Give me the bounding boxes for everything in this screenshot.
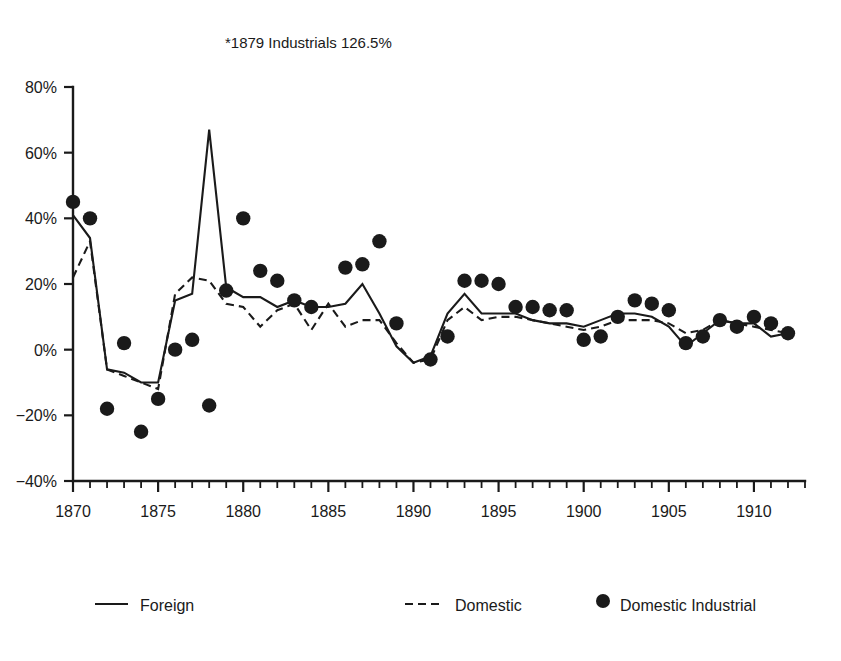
data-point-domestic-industrial xyxy=(730,319,744,333)
data-point-domestic-industrial xyxy=(83,211,97,225)
data-point-domestic-industrial xyxy=(713,313,727,327)
x-axis-tick-label: 1890 xyxy=(396,503,432,520)
data-point-domestic-industrial xyxy=(355,257,369,271)
legend-label-foreign: Foreign xyxy=(140,597,194,614)
data-point-domestic-industrial xyxy=(134,425,148,439)
x-axis-tick-label: 1910 xyxy=(736,503,772,520)
chart-title: *1879 Industrials 126.5% xyxy=(225,34,392,51)
x-axis-tick-label: 1870 xyxy=(55,503,91,520)
x-axis-tick-label: 1880 xyxy=(225,503,261,520)
data-point-domestic-industrial xyxy=(372,234,386,248)
data-point-domestic-industrial xyxy=(389,316,403,330)
data-point-domestic-industrial xyxy=(117,336,131,350)
y-axis-tick-label: 0% xyxy=(34,342,57,359)
legend-marker-domestic-industrial xyxy=(596,594,610,608)
data-point-domestic-industrial xyxy=(457,274,471,288)
data-point-domestic-industrial xyxy=(100,402,114,416)
data-point-domestic-industrial xyxy=(474,274,488,288)
data-point-domestic-industrial xyxy=(525,300,539,314)
data-point-domestic-industrial xyxy=(781,326,795,340)
data-point-domestic-industrial xyxy=(66,195,80,209)
x-axis-tick-label: 1905 xyxy=(651,503,687,520)
data-point-domestic-industrial xyxy=(168,342,182,356)
data-point-domestic-industrial xyxy=(287,293,301,307)
data-point-domestic-industrial xyxy=(423,352,437,366)
data-point-domestic-industrial xyxy=(542,303,556,317)
data-point-domestic-industrial xyxy=(577,333,591,347)
x-axis-tick-label: 1895 xyxy=(481,503,517,520)
chart-background xyxy=(0,0,841,661)
data-point-domestic-industrial xyxy=(662,303,676,317)
y-axis-tick-label: 80% xyxy=(25,79,57,96)
data-point-domestic-industrial xyxy=(764,316,778,330)
data-point-domestic-industrial xyxy=(611,310,625,324)
data-point-domestic-industrial xyxy=(559,303,573,317)
data-point-domestic-industrial xyxy=(338,260,352,274)
data-point-domestic-industrial xyxy=(440,329,454,343)
data-point-domestic-industrial xyxy=(508,300,522,314)
data-point-domestic-industrial xyxy=(202,398,216,412)
x-axis-tick-label: 1875 xyxy=(140,503,176,520)
legend-label-domestic-industrial: Domestic Industrial xyxy=(620,597,756,614)
y-axis-tick-label: −40% xyxy=(16,473,57,490)
data-point-domestic-industrial xyxy=(679,336,693,350)
y-axis-tick-label: 20% xyxy=(25,276,57,293)
data-point-domestic-industrial xyxy=(645,297,659,311)
data-point-domestic-industrial xyxy=(151,392,165,406)
data-point-domestic-industrial xyxy=(219,283,233,297)
data-point-domestic-industrial xyxy=(628,293,642,307)
x-axis-tick-label: 1885 xyxy=(311,503,347,520)
data-point-domestic-industrial xyxy=(696,329,710,343)
y-axis-tick-label: 40% xyxy=(25,210,57,227)
y-axis-tick-label: 60% xyxy=(25,145,57,162)
data-point-domestic-industrial xyxy=(747,310,761,324)
data-point-domestic-industrial xyxy=(304,300,318,314)
data-point-domestic-industrial xyxy=(270,274,284,288)
data-point-domestic-industrial xyxy=(253,264,267,278)
legend-label-domestic: Domestic xyxy=(455,597,522,614)
data-point-domestic-industrial xyxy=(491,277,505,291)
chart-figure: *1879 Industrials 126.5% −40%−20%0%20%40… xyxy=(0,0,841,661)
x-axis-tick-labels: 187018751880188518901895190019051910 xyxy=(55,503,772,520)
y-axis-tick-label: −20% xyxy=(16,407,57,424)
x-axis-tick-label: 1900 xyxy=(566,503,602,520)
data-point-domestic-industrial xyxy=(594,329,608,343)
data-point-domestic-industrial xyxy=(236,211,250,225)
data-point-domestic-industrial xyxy=(185,333,199,347)
